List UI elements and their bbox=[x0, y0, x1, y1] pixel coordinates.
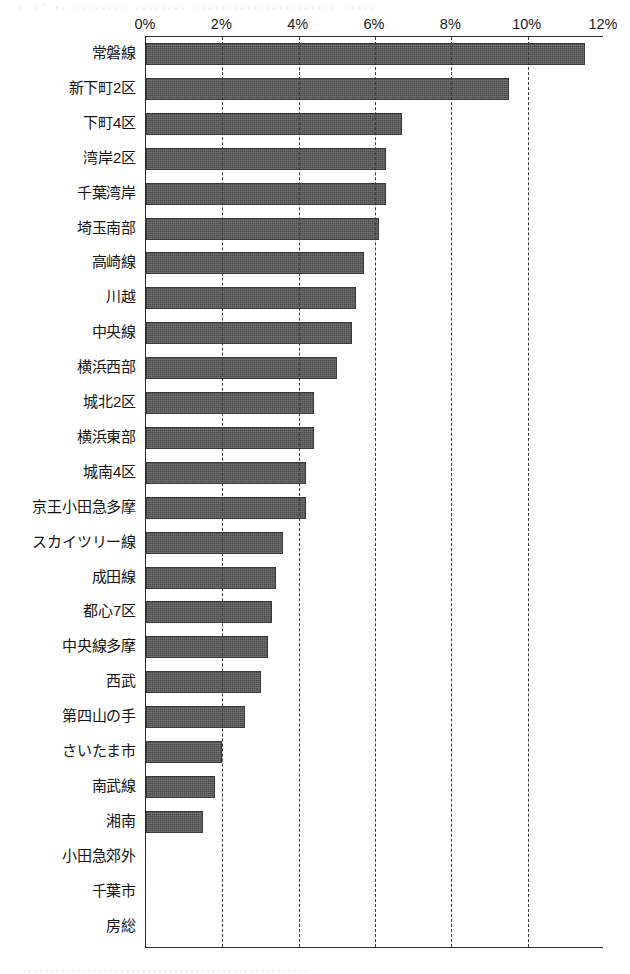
bar bbox=[146, 706, 245, 728]
bar bbox=[146, 148, 386, 170]
y-category-label-20: さいたま市 bbox=[0, 734, 140, 769]
y-category-label-25: 房総 bbox=[0, 909, 140, 944]
gridline-2 bbox=[299, 37, 300, 947]
y-category-label-10: 城北2区 bbox=[0, 385, 140, 420]
x-tick-label-4: 8% bbox=[440, 16, 461, 33]
bar-chart-figure: 。 ．・ ，． ．．．．．．．． ．．．．．．．． ．．．．．．．．．．．．．．… bbox=[0, 0, 630, 974]
y-category-label-15: 成田線 bbox=[0, 560, 140, 595]
bar bbox=[146, 43, 585, 65]
gridline-5 bbox=[528, 37, 529, 947]
y-category-label-21: 南武線 bbox=[0, 769, 140, 804]
bar bbox=[146, 532, 283, 554]
x-tick-label-0: 0% bbox=[135, 16, 156, 33]
y-category-label-8: 中央線 bbox=[0, 315, 140, 350]
gridline-4 bbox=[451, 37, 452, 947]
bar bbox=[146, 357, 337, 379]
bar bbox=[146, 462, 306, 484]
y-category-label-6: 高崎線 bbox=[0, 245, 140, 280]
x-tick-label-6: 12% bbox=[588, 16, 617, 33]
x-tick-label-2: 4% bbox=[287, 16, 308, 33]
bar bbox=[146, 741, 222, 763]
bar bbox=[146, 183, 386, 205]
x-tick-label-1: 2% bbox=[211, 16, 232, 33]
gridline-1 bbox=[222, 37, 223, 947]
y-category-label-13: 京王小田急多摩 bbox=[0, 490, 140, 525]
y-category-label-0: 常磐線 bbox=[0, 36, 140, 71]
y-category-label-19: 第四山の手 bbox=[0, 699, 140, 734]
y-category-label-11: 横浜東部 bbox=[0, 420, 140, 455]
bar bbox=[146, 776, 215, 798]
y-category-label-16: 都心7区 bbox=[0, 594, 140, 629]
y-category-label-9: 横浜西部 bbox=[0, 350, 140, 385]
bar bbox=[146, 113, 402, 135]
y-category-label-22: 湘南 bbox=[0, 804, 140, 839]
bar bbox=[146, 392, 314, 414]
y-category-label-7: 川越 bbox=[0, 280, 140, 315]
y-category-label-5: 埼玉南部 bbox=[0, 211, 140, 246]
bar bbox=[146, 287, 356, 309]
y-category-label-14: スカイツリー線 bbox=[0, 525, 140, 560]
y-category-label-1: 新下町2区 bbox=[0, 71, 140, 106]
bar bbox=[146, 601, 272, 623]
bar bbox=[146, 78, 509, 100]
y-category-label-24: 千葉市 bbox=[0, 874, 140, 909]
bar bbox=[146, 811, 203, 833]
bar bbox=[146, 218, 379, 240]
y-category-label-4: 千葉湾岸 bbox=[0, 176, 140, 211]
y-axis-category-label-column: 常磐線新下町2区下町4区湾岸2区千葉湾岸埼玉南部高崎線川越中央線横浜西部城北2区… bbox=[0, 36, 140, 948]
bar bbox=[146, 671, 261, 693]
gridline-3 bbox=[375, 37, 376, 947]
bar bbox=[146, 497, 306, 519]
scan-artifact-bottom: ．．．．．．．．．．．．．．．．．．．．．．．．．．．．．．．．．．．．．．．．… bbox=[22, 962, 612, 974]
y-category-label-18: 西武 bbox=[0, 664, 140, 699]
y-category-label-2: 下町4区 bbox=[0, 106, 140, 141]
y-category-label-17: 中央線多摩 bbox=[0, 629, 140, 664]
y-category-label-12: 城南4区 bbox=[0, 455, 140, 490]
bar bbox=[146, 322, 352, 344]
y-category-label-23: 小田急郊外 bbox=[0, 839, 140, 874]
x-tick-label-5: 10% bbox=[512, 16, 541, 33]
x-axis-tick-label-row: 0%2%4%6%8%10%12% bbox=[0, 16, 630, 33]
bar bbox=[146, 567, 276, 589]
bar bbox=[146, 427, 314, 449]
bar bbox=[146, 252, 364, 274]
y-category-label-3: 湾岸2区 bbox=[0, 141, 140, 176]
scan-artifact-top: 。 ．・ ，． ．．．．．．．． ．．．．．．．． ．．．．．．．．．．．．．．… bbox=[18, 0, 612, 11]
bar bbox=[146, 636, 268, 658]
x-tick-label-3: 6% bbox=[364, 16, 385, 33]
plot-area bbox=[145, 36, 603, 948]
